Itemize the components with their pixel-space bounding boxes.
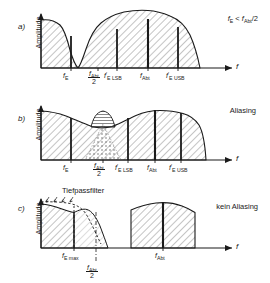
panel-a-note: fE < fAbt/2 [228, 14, 258, 23]
panel-b-x-axis-arrow [225, 157, 232, 163]
tick-label-fE-lsb-a: f′E LSB [104, 72, 122, 80]
tick-label-fE-usb-b: f′E USB [169, 164, 188, 172]
panel-b-x-axis-title: f [236, 154, 238, 163]
panel-b: b) Amplitude [0, 92, 270, 186]
panel-c: c) Amplitude [0, 184, 270, 278]
tick-label-fE-lsb-b: f′E LSB [115, 164, 133, 172]
tick-label-fAbt-b: fAbt [147, 164, 157, 171]
panel-c-note: kein Aliasing [216, 202, 258, 211]
tick-label-fAbt-half-c: fAbt2 [86, 264, 98, 280]
tick-label-fE-max-c: fE max [62, 252, 79, 259]
panel-a: a) Amplitude [0, 0, 270, 94]
panel-c-filter-label: Tiefpassfilter [62, 186, 104, 195]
panel-c-rolloff-fill [74, 209, 108, 248]
panel-c-x-axis-arrow [225, 245, 232, 251]
panel-a-y-axis-arrow [38, 13, 44, 20]
panel-a-x-axis-title: f [236, 62, 238, 71]
panel-c-filter-arrows [46, 197, 73, 202]
panel-b-note: Aliasing [230, 106, 256, 115]
panel-b-alias-overlap-hump [91, 111, 115, 127]
tick-label-fE-b: fE [63, 164, 68, 171]
panel-c-baseband-fill [41, 204, 74, 248]
panel-b-y-axis-arrow [38, 105, 44, 112]
tick-label-fAbt-a: fAbt [140, 72, 150, 79]
figure-sampling-aliasing: a) Amplitude [0, 0, 270, 283]
tick-label-fE-usb-a: f′E USB [166, 72, 185, 80]
tick-label-fAbt-c: fAbt [155, 252, 165, 259]
tick-label-fAbt-half-a: fAbt2 [88, 70, 100, 86]
panel-a-x-axis-arrow [225, 65, 232, 71]
panel-a-spectrum-fill [41, 10, 200, 68]
tick-label-fAbt-half-b: fAbt2 [93, 162, 105, 178]
panel-c-plot [0, 184, 270, 283]
panel-c-x-axis-title: f [236, 242, 238, 251]
tick-label-fE-a: fE [63, 72, 68, 79]
